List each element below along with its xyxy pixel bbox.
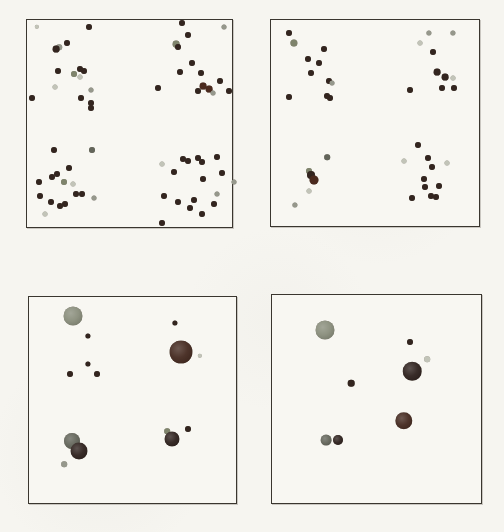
data-point — [61, 461, 67, 467]
data-point — [321, 46, 327, 52]
data-point — [327, 95, 333, 101]
data-point — [215, 192, 220, 197]
data-point — [450, 30, 455, 35]
scanned-figure-page — [0, 0, 504, 532]
data-point — [333, 435, 343, 445]
data-point — [36, 179, 42, 185]
data-point — [43, 212, 48, 217]
scatter-panel-bottom-right — [271, 294, 482, 504]
data-point — [321, 435, 332, 446]
data-point — [89, 88, 94, 93]
data-point — [175, 44, 181, 50]
data-point — [445, 161, 450, 166]
data-point — [165, 432, 180, 447]
data-point — [185, 426, 191, 432]
data-point — [85, 361, 90, 366]
data-point — [71, 443, 88, 460]
data-point — [426, 30, 431, 35]
data-point — [424, 356, 430, 362]
data-point — [79, 191, 85, 197]
data-point — [85, 333, 90, 338]
data-point — [222, 25, 227, 30]
data-point — [219, 170, 225, 176]
data-point — [51, 147, 57, 153]
data-point — [71, 182, 76, 187]
data-point — [155, 85, 161, 91]
data-point — [430, 49, 436, 55]
data-point — [310, 176, 319, 185]
data-point — [175, 199, 181, 205]
data-point — [172, 320, 177, 325]
data-point — [199, 211, 205, 217]
data-point — [395, 412, 412, 429]
data-point — [226, 88, 232, 94]
data-point — [211, 91, 216, 96]
data-point — [307, 189, 312, 194]
data-point — [92, 196, 97, 201]
data-point — [78, 75, 83, 80]
data-point — [161, 193, 167, 199]
data-point — [425, 155, 431, 161]
data-point — [439, 85, 445, 91]
data-point — [94, 371, 100, 377]
data-point — [37, 193, 43, 199]
data-point — [199, 159, 205, 165]
data-point — [415, 142, 421, 148]
data-point — [402, 159, 407, 164]
data-point — [170, 341, 193, 364]
data-point — [442, 74, 449, 81]
data-point — [348, 380, 355, 387]
data-point — [434, 69, 441, 76]
data-point — [189, 60, 195, 66]
data-point — [71, 71, 77, 77]
scatter-panel-bottom-left — [28, 296, 237, 504]
data-point — [217, 78, 223, 84]
data-point — [78, 95, 84, 101]
data-point — [316, 321, 335, 340]
data-point — [195, 88, 201, 94]
data-point — [292, 202, 297, 207]
data-point — [29, 95, 35, 101]
data-point — [53, 46, 60, 53]
data-point — [191, 197, 197, 203]
data-point — [421, 176, 427, 182]
data-point — [211, 201, 217, 207]
data-point — [436, 183, 442, 189]
data-point — [324, 154, 330, 160]
data-point — [55, 68, 61, 74]
data-point — [171, 169, 177, 175]
data-point — [198, 70, 204, 76]
data-point — [89, 147, 95, 153]
data-point — [214, 154, 220, 160]
data-point — [54, 171, 60, 177]
data-point — [403, 362, 422, 381]
data-point — [409, 195, 415, 201]
data-point — [62, 201, 68, 207]
data-point — [66, 165, 72, 171]
data-point — [418, 41, 423, 46]
data-point — [451, 76, 456, 81]
data-point — [61, 179, 67, 185]
data-point — [159, 220, 165, 226]
data-point — [407, 87, 413, 93]
data-point — [422, 184, 428, 190]
data-point — [86, 24, 92, 30]
data-point — [316, 60, 322, 66]
data-point — [290, 39, 297, 46]
data-point — [64, 307, 83, 326]
data-point — [81, 68, 87, 74]
data-point — [48, 199, 54, 205]
data-point — [308, 70, 314, 76]
data-point — [53, 85, 58, 90]
data-point — [64, 40, 70, 46]
data-point — [187, 205, 193, 211]
data-point — [88, 105, 94, 111]
data-point — [198, 354, 202, 358]
data-point — [451, 85, 457, 91]
data-point — [177, 69, 183, 75]
data-point — [286, 30, 292, 36]
data-point — [305, 56, 311, 62]
data-point — [67, 371, 73, 377]
data-point — [160, 162, 165, 167]
scatter-panel-top-right — [270, 19, 480, 227]
